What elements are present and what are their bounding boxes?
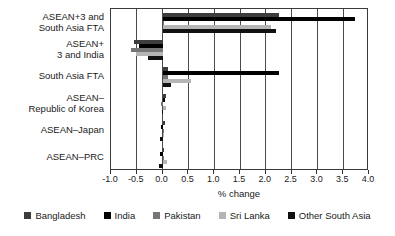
bar — [163, 148, 165, 152]
bar — [160, 137, 163, 141]
legend-item: Sri Lanka — [219, 210, 270, 221]
legend-label: Other South Asia — [299, 210, 371, 221]
legend-swatch — [24, 212, 31, 219]
bar — [163, 83, 172, 87]
gridline — [343, 9, 344, 169]
gridline — [214, 9, 215, 169]
legend-label: Bangladesh — [35, 210, 85, 221]
legend-swatch — [219, 212, 226, 219]
legend-swatch — [288, 212, 295, 219]
gridline — [162, 9, 163, 169]
legend-label: Pakistan — [164, 210, 200, 221]
legend-label: Sri Lanka — [230, 210, 270, 221]
bar — [163, 17, 355, 21]
x-axis-title: % change — [110, 188, 368, 199]
legend-swatch — [104, 212, 111, 219]
category-label: ASEAN– Republic of Korea — [0, 92, 104, 114]
category-axis-labels: ASEAN+3 and South Asia FTAASEAN+ 3 and I… — [0, 8, 104, 170]
bar — [163, 160, 167, 164]
gridline — [136, 9, 137, 169]
bar — [159, 164, 163, 168]
bar — [163, 71, 279, 75]
bar — [163, 29, 277, 33]
category-label: ASEAN+3 and South Asia FTA — [0, 11, 104, 33]
bar — [162, 110, 163, 114]
gridline — [240, 9, 241, 169]
category-label: ASEAN–Japan — [0, 124, 104, 135]
legend-swatch — [153, 212, 160, 219]
legend-item: Bangladesh — [24, 210, 85, 221]
chart-legend: BangladeshIndiaPakistanSri LankaOther So… — [0, 210, 395, 221]
category-label: South Asia FTA — [0, 70, 104, 81]
chart-figure: ASEAN+3 and South Asia FTAASEAN+ 3 and I… — [0, 0, 395, 236]
legend-item: India — [104, 210, 136, 221]
category-label: ASEAN–PRC — [0, 151, 104, 162]
plot-area — [110, 8, 368, 170]
category-label: ASEAN+ 3 and India — [0, 38, 104, 60]
x-tick-label: 4.0 — [348, 174, 388, 184]
gridline — [291, 9, 292, 169]
bar — [163, 106, 166, 110]
legend-label: India — [115, 210, 136, 221]
gridline — [317, 9, 318, 169]
legend-item: Other South Asia — [288, 210, 371, 221]
gridline — [188, 9, 189, 169]
bar — [163, 121, 165, 125]
bar — [148, 56, 162, 60]
bar — [163, 133, 164, 137]
gridline — [265, 9, 266, 169]
bar — [163, 98, 166, 102]
legend-item: Pakistan — [153, 210, 200, 221]
